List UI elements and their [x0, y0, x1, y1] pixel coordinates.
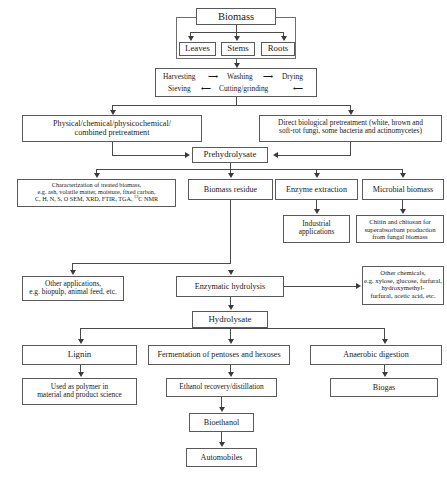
- arrowhead-other-chemicals: [356, 283, 361, 289]
- node-biomass-residue[interactable]: Biomass residue: [188, 179, 273, 200]
- node-enzymatic-hydrolysis[interactable]: Enzymatic hydrolysis: [176, 276, 284, 297]
- node-lignin[interactable]: Lignin: [22, 345, 137, 365]
- arrowhead-characterization: [94, 173, 100, 178]
- arrow-washing-drying: ⟶: [263, 73, 273, 81]
- node-hydrolysate[interactable]: Hydrolysate: [192, 311, 268, 328]
- node-chitin-line3: from fungal biomass: [358, 233, 442, 241]
- node-leaves[interactable]: Leaves: [179, 42, 216, 56]
- node-chitin-line1: Chitin and chitosan for: [358, 218, 442, 226]
- node-enzyme-extraction-label: Enzyme extraction: [286, 185, 347, 194]
- node-characterization-line3: C, H, N, S, O SEM, XRD, FTIR, TGA, 13C N…: [20, 196, 173, 203]
- node-microbial-biomass-label: Microbial biomass: [373, 185, 433, 194]
- node-physical-pretreatment-line2: combined pretreatment: [25, 128, 199, 137]
- arrow-drying-cutting: ⟵: [293, 85, 303, 93]
- node-automobiles[interactable]: Automobiles: [186, 448, 257, 467]
- arrowhead-bioethanol: [219, 407, 225, 412]
- arrowhead-anaerobic-digestion: [382, 339, 388, 344]
- node-lignin-label: Lignin: [68, 350, 91, 360]
- node-other-applications-line2: e.g. biopulp, animal feed, etc.: [25, 288, 121, 296]
- node-hydrolysate-label: Hydrolysate: [209, 315, 252, 325]
- node-other-chemicals-line2: e.g. xylose, glucose, furfural,: [364, 277, 442, 285]
- node-leaves-label: Leaves: [185, 44, 210, 54]
- arrowhead-biogas: [382, 372, 388, 377]
- node-fermentation-label: Fermentation of pentoses and hexoses: [157, 350, 280, 359]
- connector-pretreatment-bus: [112, 105, 350, 106]
- node-biomass[interactable]: Biomass: [196, 8, 276, 25]
- node-prehydrolysate-label: Prehydrolysate: [204, 150, 257, 160]
- node-ethanol-recovery[interactable]: Ethanol recovery/distillation: [166, 378, 277, 397]
- node-prehydrolysate[interactable]: Prehydrolysate: [192, 147, 268, 163]
- node-biological-pretreatment-line2: soft-rot fungi, some bacteria and actino…: [262, 127, 439, 135]
- connector-biological-to-prehydrolysate: [278, 155, 351, 156]
- node-chitin-line2: superabsorbant production: [358, 226, 442, 234]
- connector-biomass-down: [236, 25, 237, 32]
- arrowhead-polymer: [78, 372, 84, 377]
- arrowhead-enzymatic-hydrolysis: [228, 270, 234, 275]
- arrowhead-microbial-biomass: [400, 173, 406, 178]
- node-physical-pretreatment-line1: Physical/chemical/physicochemical/: [25, 119, 199, 128]
- connector-hydrolysate-bus: [80, 328, 384, 329]
- arrowhead-fermentation: [228, 339, 234, 344]
- connector-physical-down: [112, 142, 113, 155]
- connector-four-way-bus: [96, 169, 402, 170]
- arrowhead-leaves: [188, 36, 194, 41]
- node-biological-pretreatment[interactable]: Direct biological pretreatment (white, b…: [259, 115, 442, 142]
- arrowhead-lignin: [78, 339, 84, 344]
- node-biogas[interactable]: Biogas: [330, 378, 438, 397]
- node-anaerobic-digestion[interactable]: Anaerobic digestion: [310, 345, 442, 365]
- node-sieving-label: Sieving: [168, 85, 191, 93]
- arrowhead-roots: [281, 36, 287, 41]
- arrowhead-biomass-residue: [228, 173, 234, 178]
- arrowhead-automobiles: [219, 442, 225, 447]
- node-industrial-applications[interactable]: Industrial applications: [283, 215, 350, 243]
- arrowhead-enzyme-extraction: [314, 173, 320, 178]
- connector-biological-down: [350, 142, 351, 155]
- arrowhead-prehydrolysate-left: [185, 152, 190, 158]
- node-polymer-use[interactable]: Used as polymer in material and product …: [22, 378, 137, 405]
- arrowhead-chitin: [400, 209, 406, 214]
- connector-physical-to-prehydrolysate: [112, 155, 186, 156]
- arrowhead-other-applications: [70, 270, 76, 275]
- node-anaerobic-digestion-label: Anaerobic digestion: [343, 350, 408, 359]
- node-bioethanol-label: Bioethanol: [204, 418, 240, 427]
- node-chitin-chitosan[interactable]: Chitin and chitosan for superabsorbant p…: [356, 215, 444, 243]
- node-characterization-line3b: C NMR: [138, 195, 158, 202]
- node-other-applications[interactable]: Other applications, e.g. biopulp, animal…: [22, 276, 124, 301]
- node-enzymatic-hydrolysis-label: Enzymatic hydrolysis: [195, 282, 265, 291]
- node-other-chemicals-line3: hydroxymethyl-: [364, 284, 442, 292]
- node-biomass-label: Biomass: [218, 11, 254, 23]
- node-stems-label: Stems: [227, 44, 249, 54]
- node-bioethanol[interactable]: Bioethanol: [189, 413, 254, 432]
- arrowhead-hydrolysate: [228, 305, 234, 310]
- node-processing-steps[interactable]: Harvesting ⟶ Washing ⟶ Drying Sieving ⟵ …: [155, 68, 317, 97]
- node-roots[interactable]: Roots: [261, 42, 295, 56]
- node-biomass-residue-label: Biomass residue: [204, 185, 257, 194]
- node-washing-label: Washing: [227, 73, 253, 81]
- arrow-cutting-sieving: ⟵: [201, 85, 211, 93]
- node-ethanol-recovery-label: Ethanol recovery/distillation: [179, 383, 263, 391]
- node-cutting-grinding-label: Cutting/grinding: [219, 85, 268, 93]
- node-characterization-line3a: C, H, N, S, O SEM, XRD, FTIR, TGA,: [35, 195, 134, 202]
- node-stems[interactable]: Stems: [221, 42, 255, 56]
- node-enzyme-extraction[interactable]: Enzyme extraction: [275, 179, 358, 200]
- node-roots-label: Roots: [268, 44, 289, 54]
- node-characterization[interactable]: Characterization of treated biomass, e.g…: [17, 179, 176, 207]
- arrowhead-stems: [234, 36, 240, 41]
- node-harvesting-label: Harvesting: [163, 73, 195, 81]
- node-microbial-biomass[interactable]: Microbial biomass: [362, 179, 444, 200]
- node-fermentation[interactable]: Fermentation of pentoses and hexoses: [148, 345, 290, 365]
- arrowhead-prehydrolysate-right: [273, 152, 278, 158]
- connector-residue-down: [230, 200, 231, 263]
- node-other-chemicals[interactable]: Other chemicals, e.g. xylose, glucose, f…: [362, 266, 444, 305]
- node-automobiles-label: Automobiles: [201, 453, 243, 462]
- connector-residue-split-bus: [72, 263, 231, 264]
- node-polymer-use-line2: material and product science: [25, 391, 134, 399]
- node-physical-pretreatment[interactable]: Physical/chemical/physicochemical/ combi…: [22, 115, 202, 142]
- node-industrial-applications-line2: applications: [286, 228, 347, 236]
- arrowhead-industrial-applications: [314, 209, 320, 214]
- arrow-harvesting-washing: ⟶: [208, 73, 218, 81]
- node-other-chemicals-line4: furfural, acetic acid, etc.: [364, 292, 442, 300]
- connector-processing-down: [236, 97, 237, 105]
- connector-hydrolysis-to-chemicals: [284, 286, 357, 287]
- node-biogas-label: Biogas: [373, 383, 395, 392]
